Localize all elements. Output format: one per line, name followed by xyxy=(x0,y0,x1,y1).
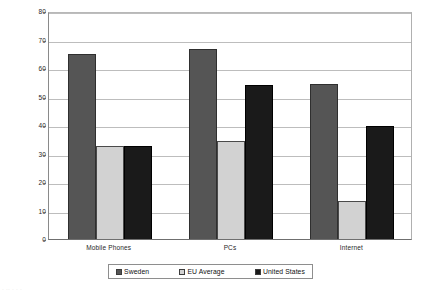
y-tick-mark xyxy=(43,240,46,241)
scan-artifact-text: · ·· · · · xyxy=(2,286,72,294)
legend-item-united-states: United States xyxy=(255,268,305,275)
y-tick-mark xyxy=(43,69,46,70)
legend-item-eu-average: EU Average xyxy=(179,268,224,275)
bar-united-states-internet xyxy=(366,126,394,239)
plot-area xyxy=(48,12,412,240)
x-axis-category-labels: Mobile PhonesPCsInternet xyxy=(48,244,412,258)
sweden-swatch xyxy=(116,269,122,275)
x-tick-label: Internet xyxy=(340,244,363,251)
y-tick-mark xyxy=(43,98,46,99)
bar-eu-average-mobile-phones xyxy=(96,146,124,239)
bar-sweden-internet xyxy=(310,84,338,239)
y-tick-mark xyxy=(43,126,46,127)
bar-united-states-pcs xyxy=(245,85,273,239)
y-tick-mark xyxy=(43,212,46,213)
bar-sweden-pcs xyxy=(189,49,217,239)
x-tick-label: Mobile Phones xyxy=(86,244,131,251)
legend-item-sweden: Sweden xyxy=(116,268,149,275)
bar-group xyxy=(292,13,413,239)
legend-label: EU Average xyxy=(187,268,224,275)
bar-group xyxy=(49,13,170,239)
eu-average-swatch xyxy=(179,269,185,275)
bar-eu-average-internet xyxy=(338,201,366,239)
legend-label: United States xyxy=(263,268,305,275)
legend-label: Sweden xyxy=(124,268,149,275)
united-states-swatch xyxy=(255,269,261,275)
y-axis: 01020304050607080 xyxy=(14,12,46,240)
bar-eu-average-pcs xyxy=(217,141,245,239)
y-tick-mark xyxy=(43,41,46,42)
y-tick-mark xyxy=(43,155,46,156)
chart-legend: SwedenEU AverageUnited States xyxy=(108,264,313,279)
y-tick-mark xyxy=(43,12,46,13)
x-tick-label: PCs xyxy=(224,244,237,251)
bar-sweden-mobile-phones xyxy=(68,54,96,239)
bar-group xyxy=(170,13,291,239)
bar-chart-figure: 01020304050607080 Mobile PhonesPCsIntern… xyxy=(0,0,421,296)
y-tick-mark xyxy=(43,183,46,184)
bar-united-states-mobile-phones xyxy=(124,146,152,239)
